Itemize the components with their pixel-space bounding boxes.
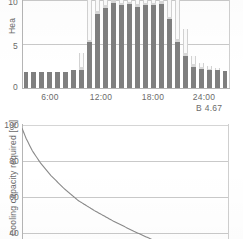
bar — [24, 72, 29, 88]
bar-segment-peak-load — [191, 56, 196, 64]
bottom-chart-plot-area — [22, 124, 229, 239]
bottom-chart-ytick-100: 100 — [0, 121, 19, 130]
top-chart-bars — [22, 0, 229, 88]
top-chart-y-axis-label: Hea — [8, 18, 17, 34]
bar — [199, 62, 204, 88]
bar-segment-base-load — [39, 72, 44, 88]
bar-segment-base-load — [151, 5, 156, 88]
bar-segment-base-load — [119, 5, 124, 88]
bar — [95, 0, 100, 88]
top-chart-xtick-2400: 24:00 — [184, 93, 224, 102]
bar-segment-base-load — [111, 3, 116, 88]
bar-segment-base-load — [103, 8, 108, 88]
bar-segment-base-load — [183, 56, 188, 88]
top-chart-ytick-10: 10 — [0, 0, 18, 7]
bar — [159, 0, 164, 88]
top-chart-xtick-1200: 12:00 — [81, 93, 121, 102]
bar — [135, 0, 140, 88]
bar — [215, 68, 220, 88]
bar-segment-peak-load — [79, 53, 84, 67]
heating-load-bar-chart: Hea 10 5 0 6:00 12:00 18:00 24:00 B 4.67 — [0, 0, 243, 112]
bar-segment-base-load — [79, 70, 84, 88]
bottom-chart-ytick-60: 60 — [0, 193, 19, 202]
cooling-capacity-line-chart: Cooling capacity required [%] 100 80 60 … — [0, 120, 243, 239]
bar — [183, 29, 188, 88]
bar-segment-base-load — [223, 71, 228, 88]
bar — [79, 53, 84, 88]
bar — [175, 0, 180, 88]
bottom-chart-y-axis-label: Cooling capacity required [%] — [9, 120, 18, 236]
bar-segment-base-load — [95, 14, 100, 88]
bar — [167, 0, 172, 88]
bar — [55, 72, 60, 88]
bar — [223, 71, 228, 88]
bar-segment-base-load — [199, 69, 204, 88]
bar-segment-base-load — [87, 42, 92, 88]
bar-segment-base-load — [31, 72, 36, 88]
bar-segment-base-load — [167, 19, 172, 88]
top-chart-plot-area — [22, 0, 229, 88]
top-chart-ytick-0: 0 — [0, 83, 18, 92]
bar-segment-peak-load — [95, 0, 100, 11]
bar — [143, 0, 148, 88]
top-chart-xtick-1800: 18:00 — [133, 93, 173, 102]
top-chart-x-axis — [22, 88, 230, 89]
bar-segment-base-load — [47, 72, 52, 88]
bar-segment-base-load — [159, 4, 164, 88]
bar — [127, 0, 132, 88]
bar-segment-peak-load — [87, 0, 92, 40]
bar — [103, 0, 108, 88]
bar — [111, 0, 116, 88]
bar — [87, 0, 92, 88]
bar-segment-base-load — [175, 42, 180, 88]
bar — [39, 72, 44, 88]
bar — [71, 70, 76, 88]
top-chart-right-border — [229, 0, 230, 88]
bar-segment-base-load — [207, 70, 212, 88]
bar-segment-base-load — [24, 72, 29, 88]
top-chart-xtick-0600: 6:00 — [30, 93, 70, 102]
bar — [207, 66, 212, 88]
bar — [31, 72, 36, 88]
bar-segment-base-load — [63, 72, 68, 88]
top-chart-y-axis — [22, 0, 23, 88]
bar-segment-base-load — [135, 7, 140, 88]
bar — [151, 0, 156, 88]
bar-segment-base-load — [127, 4, 132, 88]
bar-segment-base-load — [143, 5, 148, 88]
bar-segment-base-load — [71, 70, 76, 88]
bar-segment-base-load — [191, 67, 196, 88]
bottom-chart-ytick-80: 80 — [0, 157, 19, 166]
bar-segment-peak-load — [175, 0, 180, 39]
bottom-chart-curve — [22, 124, 229, 239]
bar — [191, 56, 196, 88]
bar — [119, 0, 124, 88]
bar — [63, 72, 68, 88]
bar-segment-peak-load — [167, 0, 172, 17]
bar-segment-peak-load — [183, 29, 188, 53]
top-chart-ytick-5: 5 — [0, 42, 18, 51]
bar-segment-base-load — [215, 70, 220, 88]
bar-segment-base-load — [55, 72, 60, 88]
bar — [47, 72, 52, 88]
bottom-chart-ytick-40: 40 — [0, 229, 19, 238]
figure-caption: B 4.67 — [196, 104, 222, 113]
